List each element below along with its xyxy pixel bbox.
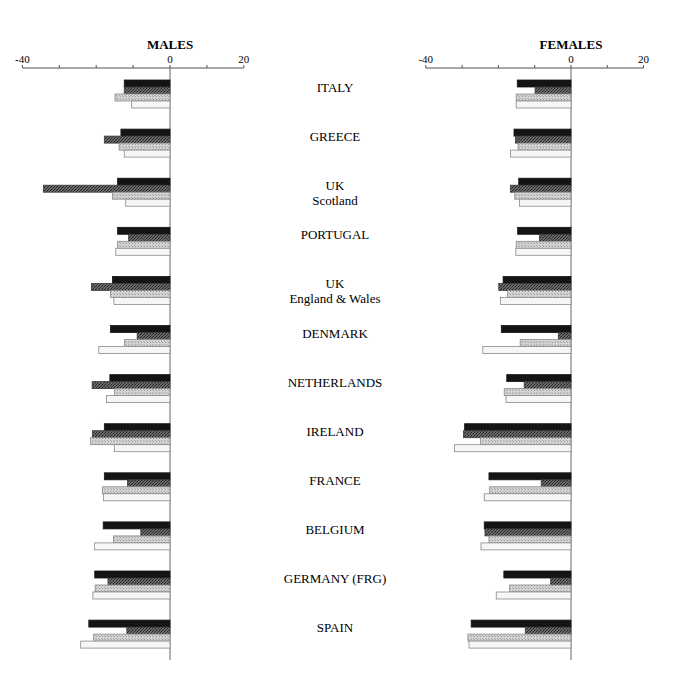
country-label: GREECE — [310, 129, 361, 144]
bar — [515, 192, 571, 199]
bar — [496, 592, 571, 599]
bar — [104, 424, 170, 431]
bar — [95, 571, 170, 578]
bar — [503, 276, 571, 283]
bar — [95, 585, 170, 592]
bar — [137, 333, 170, 340]
bar — [541, 480, 571, 487]
bar — [102, 487, 170, 494]
bar — [114, 536, 170, 543]
bar — [94, 543, 170, 550]
tick-label: -40 — [418, 53, 433, 65]
bar — [484, 522, 571, 529]
bar — [129, 234, 170, 241]
bar — [558, 333, 571, 340]
country-label: UK — [326, 276, 345, 291]
bar — [111, 290, 170, 297]
males-title: MALES — [147, 37, 193, 52]
bar — [91, 438, 170, 445]
country-label: FRANCE — [309, 473, 360, 488]
country-label: UK — [326, 178, 345, 193]
bar — [93, 431, 170, 438]
bar — [535, 87, 571, 94]
bar — [112, 276, 170, 283]
bar — [115, 94, 170, 101]
bar — [118, 241, 170, 248]
bar — [481, 438, 571, 445]
bar — [124, 150, 170, 157]
bar — [510, 585, 571, 592]
bar — [107, 396, 170, 403]
tick-label: 20 — [238, 53, 250, 65]
bar — [128, 480, 170, 487]
bar — [489, 473, 571, 480]
bar — [481, 543, 571, 550]
bar — [124, 80, 170, 87]
bar — [43, 185, 170, 192]
tick-label: -40 — [15, 53, 30, 65]
bar — [104, 473, 170, 480]
bar — [124, 87, 170, 94]
bar — [517, 80, 571, 87]
bar — [518, 143, 571, 150]
bar — [115, 389, 170, 396]
bar — [104, 136, 170, 143]
bar — [454, 445, 571, 452]
bar — [515, 136, 571, 143]
bar — [501, 297, 571, 304]
bar — [507, 290, 571, 297]
bar — [504, 571, 571, 578]
bar — [116, 248, 170, 255]
bar — [484, 494, 571, 501]
bar — [519, 178, 571, 185]
bar — [92, 382, 170, 389]
bar — [516, 241, 571, 248]
bar — [551, 578, 571, 585]
country-label: DENMARK — [302, 326, 368, 341]
bar — [468, 634, 571, 641]
bar — [516, 101, 571, 108]
bar — [132, 101, 170, 108]
country-label: IRELAND — [306, 424, 363, 439]
bar — [469, 641, 571, 648]
bar — [104, 494, 170, 501]
bar — [118, 178, 170, 185]
bar — [524, 382, 571, 389]
country-label: Scotland — [312, 193, 358, 208]
country-labels: ITALYGREECEUKScotlandPORTUGALUKEngland &… — [284, 80, 386, 635]
bar — [112, 192, 170, 199]
bar — [114, 445, 170, 452]
bar — [81, 641, 170, 648]
bar — [499, 283, 571, 290]
bar — [501, 326, 571, 333]
bar — [110, 375, 170, 382]
bar — [519, 199, 571, 206]
country-label: ITALY — [317, 80, 354, 95]
bar — [125, 340, 170, 347]
bar — [506, 396, 571, 403]
tick-label: 0 — [167, 53, 173, 65]
bar — [94, 634, 170, 641]
bar — [108, 578, 170, 585]
bar — [471, 620, 571, 627]
country-label: SPAIN — [317, 620, 354, 635]
tick-label: 20 — [638, 53, 650, 65]
bar — [111, 326, 170, 333]
country-label: BELGIUM — [305, 522, 365, 537]
country-label: England & Wales — [289, 291, 380, 306]
bar — [489, 536, 571, 543]
bar — [114, 297, 170, 304]
bar — [514, 129, 571, 136]
bar — [485, 529, 571, 536]
bar — [520, 340, 571, 347]
bar — [121, 129, 170, 136]
bar — [126, 199, 170, 206]
bar — [510, 150, 571, 157]
females-title: FEMALES — [540, 37, 603, 52]
bar — [103, 522, 170, 529]
bar — [525, 627, 571, 634]
bar — [118, 227, 170, 234]
females-panel: FEMALES-40020 — [418, 37, 649, 660]
bar — [91, 283, 170, 290]
bar — [504, 389, 571, 396]
